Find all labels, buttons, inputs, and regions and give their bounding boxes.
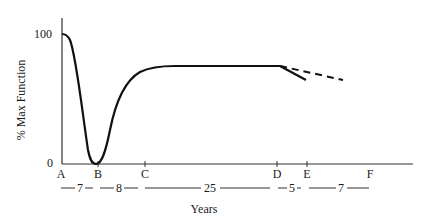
x-tick-D: D bbox=[273, 167, 282, 181]
interval-A-B: 7 bbox=[77, 181, 83, 195]
x-tick-C: C bbox=[141, 167, 149, 181]
interval-D-E: 5 bbox=[289, 181, 295, 195]
series-projected-line bbox=[280, 66, 343, 80]
interval-E-F: 7 bbox=[338, 181, 344, 195]
y-tick-100: 100 bbox=[34, 27, 52, 41]
y-tick-0: 0 bbox=[47, 156, 53, 170]
x-tick-F: F bbox=[367, 167, 374, 181]
interval-C-D: 25 bbox=[204, 181, 216, 195]
x-tick-B: B bbox=[94, 167, 102, 181]
x-tick-E: E bbox=[303, 167, 310, 181]
x-axis-label: Years bbox=[191, 202, 218, 216]
interval-B-C: 8 bbox=[116, 181, 122, 195]
y-axis-label: % Max Function bbox=[14, 60, 28, 141]
chart: 100 0 % Max Function A B C D E F 7 8 25 … bbox=[0, 0, 429, 224]
series-function-line bbox=[62, 34, 306, 164]
x-tick-A: A bbox=[57, 167, 66, 181]
